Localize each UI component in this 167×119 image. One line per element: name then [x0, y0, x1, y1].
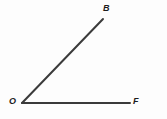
point-label-b: B: [103, 4, 110, 13]
angle-diagram: O B F: [0, 0, 167, 119]
vertex-label-o: O: [9, 97, 16, 106]
ray-ob-line: [22, 19, 103, 103]
angle-figure-svg: [0, 0, 167, 119]
point-label-f: F: [133, 97, 139, 106]
